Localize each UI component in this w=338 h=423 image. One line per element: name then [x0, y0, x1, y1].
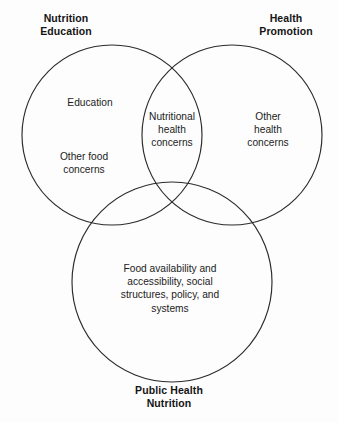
region-label-other-food-concerns: Other food concerns: [36, 150, 132, 176]
region-label-nutritional-health-concerns: Nutritional health concerns: [128, 110, 216, 150]
label-public-health-nutrition: Public Health Nutrition: [99, 384, 239, 410]
label-nutrition-education: Nutrition Education: [14, 12, 118, 38]
label-health-promotion: Health Promotion: [234, 12, 338, 38]
venn-diagram-canvas: [0, 0, 338, 423]
venn-diagram-page: Nutrition Education Health Promotion Pub…: [0, 0, 338, 423]
region-label-food-availability: Food availability and accessibility, soc…: [92, 262, 248, 315]
region-label-other-health-concerns: Other health concerns: [228, 110, 308, 150]
region-label-education: Education: [44, 96, 136, 109]
